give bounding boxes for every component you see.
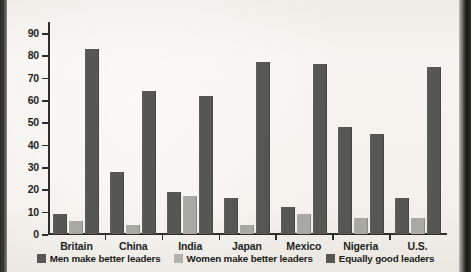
legend-item: Women make better leaders [174, 253, 313, 264]
bar-group [332, 22, 389, 234]
bar [338, 127, 352, 234]
bar [167, 192, 181, 234]
x-axis-tick [219, 233, 221, 240]
bar [411, 218, 425, 234]
x-axis-category-label: India [178, 240, 202, 252]
legend-label: Men make better leaders [50, 253, 161, 264]
grouped-bar-chart: 0102030405060708090 BritainChinaIndiaJap… [0, 0, 471, 272]
bar [85, 49, 99, 234]
legend-swatch-icon [326, 254, 335, 263]
bar-group-bars [105, 22, 162, 234]
legend-swatch-icon [174, 254, 183, 263]
bar [53, 214, 67, 234]
bar-group [389, 22, 446, 234]
x-axis-category-label: Mexico [286, 240, 321, 252]
bar [142, 91, 156, 234]
bar-group [275, 22, 332, 234]
chart-page: 0102030405060708090 BritainChinaIndiaJap… [0, 0, 471, 272]
bar-group [219, 22, 276, 234]
y-axis-tick-label: 60 [28, 94, 39, 106]
y-axis-tick-label: 10 [28, 206, 39, 218]
bar [126, 225, 140, 234]
x-axis-category-label: China [119, 240, 148, 252]
bar [240, 225, 254, 234]
bar [110, 172, 124, 234]
bar [224, 198, 238, 234]
y-axis-tick-label: 80 [28, 49, 39, 61]
bar [395, 198, 409, 234]
x-axis-tick [332, 233, 334, 240]
bar-group-bars [162, 22, 219, 234]
x-axis-category-label: Nigeria [343, 240, 378, 252]
bar [256, 62, 270, 234]
plot-area: 0102030405060708090 [48, 22, 446, 234]
bar-group-bars [219, 22, 276, 234]
bar [297, 214, 311, 234]
x-axis-tick [105, 233, 107, 240]
bar [199, 96, 213, 234]
y-axis-tick-label: 0 [33, 228, 39, 240]
legend-swatch-icon [37, 254, 46, 263]
chart-legend: Men make better leadersWomen make better… [0, 253, 471, 264]
x-axis-tick [389, 233, 391, 240]
x-axis-category-label: Britain [60, 240, 93, 252]
x-axis-tick [275, 233, 277, 240]
legend-item: Equally good leaders [326, 253, 435, 264]
bar-group [48, 22, 105, 234]
bar [354, 218, 368, 234]
x-axis-category-label: U.S. [408, 240, 428, 252]
bar [183, 196, 197, 234]
y-axis-tick-label: 50 [28, 116, 39, 128]
bar-group-bars [275, 22, 332, 234]
legend-label: Women make better leaders [187, 253, 313, 264]
bar [281, 207, 295, 234]
y-axis-tick-label: 90 [28, 27, 39, 39]
x-axis-category-label: Japan [232, 240, 262, 252]
y-axis-tick [42, 234, 48, 236]
legend-label: Equally good leaders [339, 253, 435, 264]
bar [370, 134, 384, 234]
y-axis-tick-label: 20 [28, 183, 39, 195]
bar-group-bars [48, 22, 105, 234]
bar-group-bars [389, 22, 446, 234]
bar [69, 221, 83, 234]
legend-item: Men make better leaders [37, 253, 161, 264]
y-axis-tick-label: 30 [28, 161, 39, 173]
bar-group [162, 22, 219, 234]
bar [427, 67, 441, 234]
x-axis-tick [162, 233, 164, 240]
bar [313, 64, 327, 234]
y-axis-tick-label: 70 [28, 72, 39, 84]
bar-group-bars [332, 22, 389, 234]
y-axis-tick-label: 40 [28, 139, 39, 151]
bar-group [105, 22, 162, 234]
